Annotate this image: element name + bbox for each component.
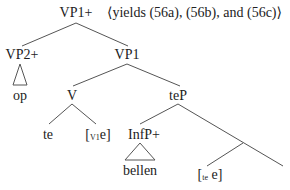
node-tep: teP xyxy=(169,89,187,103)
node-v: V xyxy=(67,89,77,103)
branch-tep-infp xyxy=(140,104,178,124)
branch-vp1-v xyxy=(73,64,127,86)
branch-root-vp2plus xyxy=(22,23,76,46)
leaf-te: te xyxy=(43,128,53,142)
trace-text: e] xyxy=(208,167,222,182)
node-vp2plus: VP2+ xyxy=(6,48,39,62)
leaf-bellen: bellen xyxy=(123,164,157,178)
root-annotation: ⟨yields (56a), (56b), and (56c)⟩ xyxy=(107,6,282,20)
leaf-op: op xyxy=(13,89,27,103)
subscript-v1: V1 xyxy=(90,133,100,142)
branch-vp1-tep xyxy=(127,64,180,86)
branch-v-te xyxy=(49,104,72,124)
trace-text: e] xyxy=(100,127,111,142)
leaf-te-trace: [te e] xyxy=(198,168,223,185)
triangle-vp2plus xyxy=(13,64,27,85)
node-vp1plus-root: VP1+ xyxy=(60,6,93,20)
branch-v-v1e xyxy=(72,104,96,124)
node-vp1: VP1 xyxy=(115,48,140,62)
branch-root-vp1 xyxy=(76,23,128,46)
branch-inner-tee xyxy=(207,143,243,166)
tree-branches xyxy=(0,0,290,190)
branch-tep-right xyxy=(178,104,283,166)
triangle-infpplus xyxy=(125,143,155,160)
leaf-v1-trace: [V1e] xyxy=(85,128,110,145)
node-infpplus: InfP+ xyxy=(128,128,160,142)
